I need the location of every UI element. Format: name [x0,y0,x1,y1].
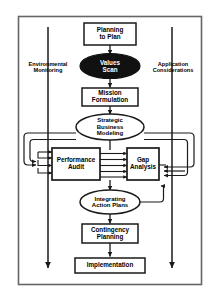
implementation-shape [75,258,145,273]
application-considerations-label: Application Considerations [141,61,205,74]
gap-analysis-shape [127,148,159,180]
environmental-monitoring-label: Environmental Monitoring [16,61,80,74]
diagram-node-shapes [0,0,220,302]
values-scan-shape [80,54,140,79]
contingency-planning-shape [82,224,138,243]
integrating-action-plans-shape [80,190,140,214]
performance-audit-shape [52,148,100,180]
planning-to-plan-shape [84,23,136,45]
mission-formulation-shape [82,88,138,106]
strategic-business-modeling-shape [76,114,144,140]
strategic-planning-diagram: Planning to Plan Values Scan Mission For… [0,0,220,302]
